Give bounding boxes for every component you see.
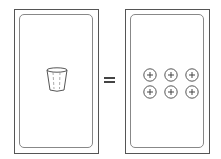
left-card	[14, 9, 99, 154]
circled-plus-icon	[164, 68, 178, 82]
circled-plus-icon	[185, 85, 199, 99]
cup-icon	[45, 67, 69, 93]
circled-plus-icon	[143, 68, 157, 82]
circled-plus-icon	[164, 85, 178, 99]
right-card	[125, 9, 210, 154]
circled-plus-icon	[143, 85, 157, 99]
equals-sign	[104, 77, 115, 83]
coin-grid	[143, 68, 199, 100]
circled-plus-icon	[185, 68, 199, 82]
